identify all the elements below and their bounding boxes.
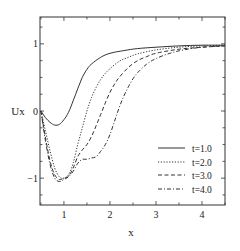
x-tick-label: 4: [199, 209, 204, 220]
x-tick-label: 1: [61, 209, 66, 220]
y-tick-label: 0: [33, 106, 38, 117]
legend-label: t=4.0: [192, 185, 212, 195]
legend-label: t=1.0: [192, 144, 212, 154]
x-axis-label: x: [128, 226, 134, 238]
legend-label: t=3.0: [192, 171, 212, 181]
x-tick-label: 3: [153, 209, 158, 220]
line-chart: 1234−101 t=1.0t=2.0t=3.0t=4.0 x Ux: [0, 0, 240, 251]
legend-label: t=2.0: [192, 158, 212, 168]
x-tick-label: 2: [107, 209, 112, 220]
y-tick-label: −1: [27, 173, 38, 184]
y-axis-label: Ux: [11, 105, 25, 117]
y-tick-label: 1: [33, 38, 38, 49]
legend: t=1.0t=2.0t=3.0t=4.0: [158, 144, 212, 195]
series-line-t-1-0: [41, 45, 225, 125]
